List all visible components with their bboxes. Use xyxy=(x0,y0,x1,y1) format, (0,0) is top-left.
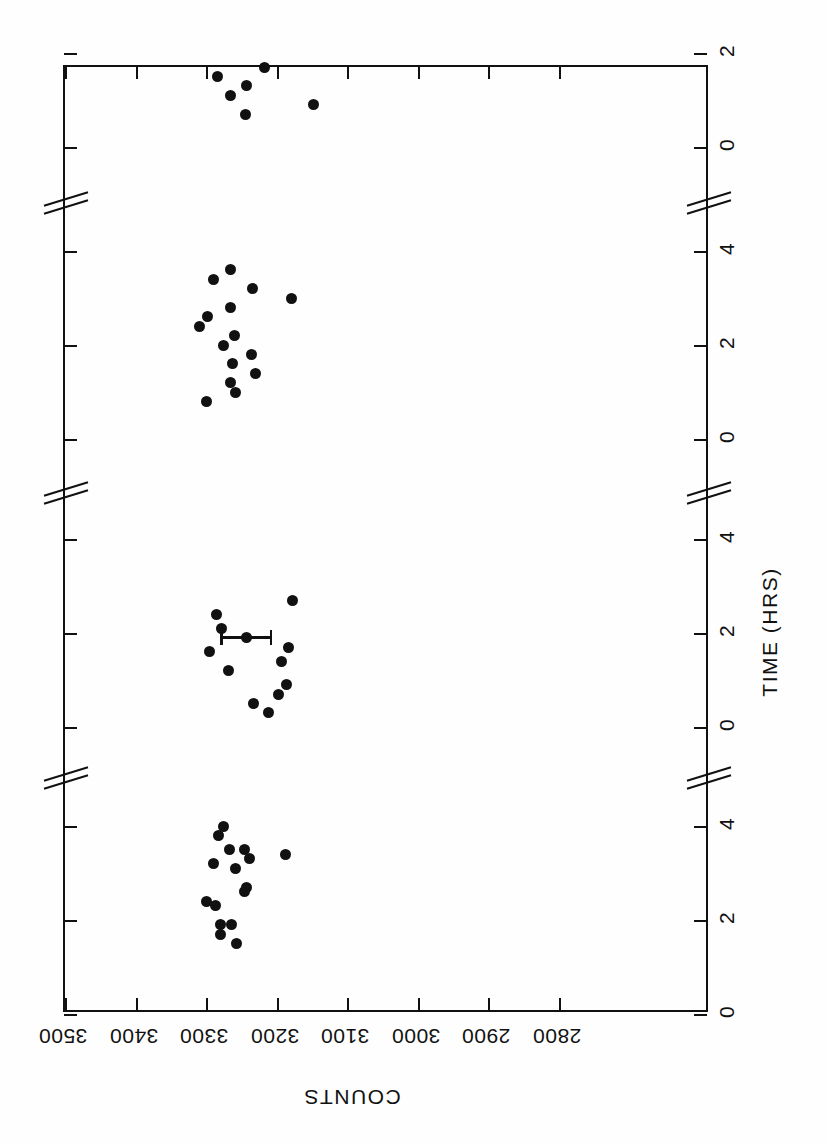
counts-tick-3000 xyxy=(418,66,420,79)
time-tick-label-3: 0 xyxy=(715,712,739,738)
data-point xyxy=(276,656,287,667)
data-point xyxy=(308,99,319,110)
time-tick-run1-4h xyxy=(694,826,707,828)
time-tick-run4-2h xyxy=(64,53,77,55)
data-point xyxy=(263,707,274,718)
time-tick-run3-0h xyxy=(64,439,77,441)
time-tick-run4-2h xyxy=(694,53,707,55)
axis-break-2-bottom xyxy=(686,479,732,505)
data-point xyxy=(194,321,205,332)
time-tick-label-9: 0 xyxy=(715,132,739,158)
time-tick-label-6: 0 xyxy=(715,424,739,450)
data-point xyxy=(212,71,223,82)
counts-tick-3100 xyxy=(347,998,349,1011)
time-tick-run1-4h xyxy=(64,826,77,828)
data-point xyxy=(215,919,226,930)
counts-tick-label-3000: 3000 xyxy=(390,1024,442,1048)
data-point xyxy=(248,698,259,709)
counts-tick-2800 xyxy=(559,66,561,79)
error-bar xyxy=(220,636,272,639)
time-tick-run3-2h xyxy=(694,345,707,347)
time-tick-run2-0h xyxy=(694,727,707,729)
counts-tick-2800 xyxy=(559,998,561,1011)
time-tick-label-7: 2 xyxy=(715,330,739,356)
data-point xyxy=(280,849,291,860)
data-point xyxy=(259,62,270,73)
time-tick-run2-4h xyxy=(64,539,77,541)
data-point xyxy=(225,90,236,101)
counts-tick-label-3300: 3300 xyxy=(178,1024,230,1048)
data-point xyxy=(230,387,241,398)
counts-tick-3200 xyxy=(277,998,279,1011)
data-point xyxy=(281,679,292,690)
data-point xyxy=(208,858,219,869)
data-point xyxy=(286,293,297,304)
counts-tick-3300 xyxy=(206,998,208,1011)
counts-axis-title: COUNTS xyxy=(303,1085,401,1109)
data-point xyxy=(223,665,234,676)
data-point xyxy=(202,311,213,322)
error-bar-cap-right xyxy=(270,630,273,645)
counts-tick-3400 xyxy=(136,66,138,79)
time-tick-run3-0h xyxy=(694,439,707,441)
data-point xyxy=(283,642,294,653)
data-point xyxy=(231,938,242,949)
time-tick-label-4: 2 xyxy=(715,618,739,644)
counts-tick-2900 xyxy=(488,998,490,1011)
counts-tick-3500 xyxy=(65,66,67,79)
counts-tick-label-3500: 3500 xyxy=(37,1024,89,1048)
axis-break-2-top xyxy=(43,479,89,505)
data-point xyxy=(229,330,240,341)
data-point xyxy=(208,274,219,285)
data-point xyxy=(224,844,235,855)
data-point xyxy=(230,863,241,874)
counts-tick-2900 xyxy=(488,66,490,79)
axis-break-1-top xyxy=(43,764,89,790)
counts-tick-3300 xyxy=(206,66,208,79)
counts-tick-label-3200: 3200 xyxy=(249,1024,301,1048)
time-tick-run3-4h xyxy=(694,251,707,253)
data-point xyxy=(225,302,236,313)
data-point xyxy=(241,882,252,893)
data-point xyxy=(287,595,298,606)
data-point xyxy=(213,830,224,841)
data-point xyxy=(226,919,237,930)
counts-tick-3400 xyxy=(136,998,138,1011)
counts-tick-3000 xyxy=(418,998,420,1011)
data-point xyxy=(246,349,257,360)
time-tick-run2-0h xyxy=(64,727,77,729)
time-tick-run4-0h xyxy=(64,147,77,149)
time-tick-run3-4h xyxy=(64,251,77,253)
data-point xyxy=(218,821,229,832)
data-point xyxy=(218,340,229,351)
axis-break-1-bottom xyxy=(686,764,732,790)
counts-tick-3200 xyxy=(277,66,279,79)
data-point xyxy=(241,80,252,91)
time-tick-label-1: 2 xyxy=(715,905,739,931)
counts-tick-3500 xyxy=(65,998,67,1011)
counts-tick-label-3400: 3400 xyxy=(108,1024,160,1048)
time-axis-title: TIME (HRS) xyxy=(758,562,782,702)
time-tick-label-0: 0 xyxy=(715,999,739,1025)
data-point xyxy=(247,283,258,294)
data-point xyxy=(250,368,261,379)
time-tick-run1-0h xyxy=(694,1014,707,1016)
time-tick-run2-2h xyxy=(694,633,707,635)
counts-tick-label-2800: 2800 xyxy=(531,1024,583,1048)
time-tick-label-5: 4 xyxy=(715,524,739,550)
data-point xyxy=(210,900,221,911)
data-point xyxy=(227,358,238,369)
data-point xyxy=(244,853,255,864)
counts-tick-label-2900: 2900 xyxy=(460,1024,512,1048)
data-point xyxy=(273,689,284,700)
data-point xyxy=(211,609,222,620)
error-bar-cap-left xyxy=(220,630,223,645)
figure-canvas: 35003400330032003100300029002800 0240240… xyxy=(0,0,827,1145)
time-tick-label-10: 2 xyxy=(715,38,739,64)
time-tick-run1-2h xyxy=(64,920,77,922)
time-tick-run2-4h xyxy=(694,539,707,541)
data-point xyxy=(225,264,236,275)
time-tick-run1-0h xyxy=(64,1014,77,1016)
time-tick-run3-2h xyxy=(64,345,77,347)
counts-tick-label-3100: 3100 xyxy=(319,1024,371,1048)
